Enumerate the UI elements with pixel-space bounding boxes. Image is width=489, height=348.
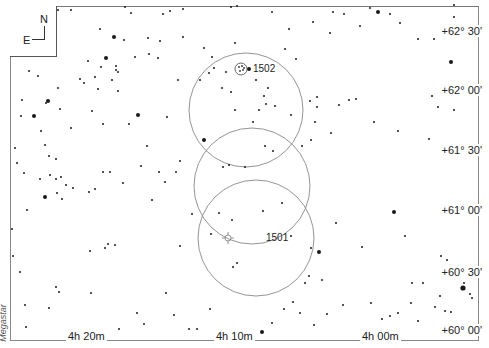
fov-circles (189, 53, 314, 296)
dec-label: +61° 30' (441, 144, 483, 156)
dec-label: +62° 30' (441, 25, 483, 37)
watermark: Megastar (0, 304, 8, 342)
compass-east-arrow (32, 39, 45, 40)
planetary-nebula-icon[interactable] (235, 63, 247, 75)
star-field (0, 0, 489, 348)
compass-north-label: N (40, 13, 48, 25)
dec-label: +61° 00' (441, 204, 483, 216)
fov-circle (198, 180, 314, 296)
compass-north-arrow (44, 26, 45, 39)
compass-east-label: E (23, 34, 30, 46)
dec-label: +60° 30' (441, 266, 483, 278)
dec-label: +62° 00' (441, 84, 483, 96)
ra-label: 4h 00m (360, 330, 401, 342)
object-label-1501[interactable]: 1501 (266, 232, 288, 243)
fov-circle (194, 128, 310, 244)
object-symbols (222, 63, 247, 244)
star-chart: N E +62° 30' +62° 00' +61° 30' +61° 00' … (0, 0, 489, 348)
object-label-1502[interactable]: 1502 (253, 63, 275, 74)
compass-box: N E (10, 6, 57, 57)
dec-label: +60° 00' (441, 324, 483, 336)
ra-label: 4h 20m (66, 330, 107, 342)
ra-label: 4h 10m (214, 330, 255, 342)
